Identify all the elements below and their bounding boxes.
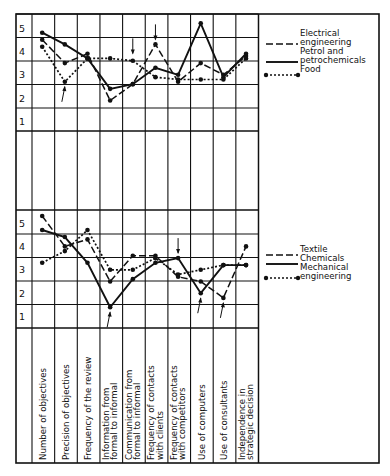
- data-point: [198, 279, 203, 284]
- arrow-head-icon: [131, 49, 135, 54]
- y-tick-label: 4: [19, 241, 25, 252]
- category-label: with clients: [155, 410, 165, 460]
- legend-top: ElectricalengineeringPetrol andpetrochem…: [264, 28, 367, 77]
- data-point: [108, 279, 113, 284]
- data-point: [63, 42, 68, 47]
- data-point: [221, 296, 226, 301]
- data-point: [198, 268, 203, 273]
- data-point: [85, 228, 90, 233]
- data-point: [244, 51, 249, 56]
- legend-label: engineering: [300, 271, 351, 281]
- data-point: [85, 51, 90, 56]
- category-labels: Number of objectivesPrecision of objecti…: [38, 357, 255, 460]
- data-point: [40, 30, 45, 35]
- data-point: [176, 77, 181, 82]
- data-point: [130, 268, 135, 273]
- category-label: Use of computers: [197, 384, 207, 460]
- category-label: Number of objectives: [38, 367, 48, 460]
- data-point: [244, 244, 249, 249]
- series-line: [42, 230, 246, 307]
- data-point: [221, 77, 226, 82]
- y-tick-label: 3: [19, 264, 25, 275]
- y-tick-label: 1: [19, 311, 25, 322]
- y-tick-label: 3: [19, 69, 25, 80]
- data-point: [153, 260, 158, 265]
- y-tick-label: 2: [19, 288, 25, 299]
- legend-item: Electricalengineering: [266, 28, 351, 47]
- category-label: formal to informal: [109, 383, 119, 460]
- data-point: [198, 21, 203, 26]
- data-point: [198, 61, 203, 66]
- y-tick-label: 4: [19, 46, 25, 57]
- bottom-panel-series: [40, 214, 248, 310]
- legend-marker: [264, 73, 268, 77]
- category-label: Precision of objectives: [61, 364, 71, 460]
- y-tick-label: 2: [19, 93, 25, 104]
- data-point: [221, 263, 226, 268]
- data-point: [153, 42, 158, 47]
- legend-marker: [264, 276, 268, 280]
- data-point: [40, 260, 45, 265]
- arrow-head-icon: [198, 297, 202, 303]
- category-label: with competitors: [177, 387, 187, 460]
- data-point: [108, 56, 113, 61]
- data-point: [40, 214, 45, 219]
- y-tick-label: 5: [19, 218, 25, 229]
- data-point: [85, 237, 90, 242]
- data-point: [40, 37, 45, 42]
- series-mechanical-engineering: [40, 228, 248, 277]
- top-panel-series: [40, 21, 248, 103]
- y-axis-ticks: 5432154321: [19, 23, 25, 323]
- y-tick-label: 5: [19, 23, 25, 34]
- data-point: [63, 244, 68, 249]
- category-label: strategic decision: [245, 384, 255, 460]
- data-point: [130, 277, 135, 282]
- data-point: [40, 44, 45, 49]
- data-point: [40, 228, 45, 233]
- data-point: [63, 80, 68, 85]
- data-point: [108, 98, 113, 103]
- series-chemicals: [40, 228, 248, 310]
- series-textile: [40, 214, 248, 301]
- data-point: [176, 256, 181, 261]
- data-point: [63, 235, 68, 240]
- arrow-head-icon: [176, 249, 180, 254]
- series-line: [42, 230, 246, 274]
- data-point: [153, 65, 158, 70]
- data-point: [85, 56, 90, 61]
- data-point: [153, 256, 158, 261]
- data-point: [198, 77, 203, 82]
- category-label: Use of consultants: [219, 380, 229, 460]
- data-point: [130, 82, 135, 87]
- data-point: [130, 253, 135, 258]
- data-point: [176, 272, 181, 277]
- data-point: [176, 73, 181, 78]
- y-tick-label: 1: [19, 116, 25, 127]
- data-point: [153, 75, 158, 80]
- chart-figure: 5432154321 ElectricalengineeringPetrol a…: [0, 0, 390, 476]
- legend-label: Food: [300, 64, 321, 74]
- data-point: [63, 249, 68, 254]
- category-label: Frequency of the review: [83, 357, 93, 460]
- data-point: [108, 268, 113, 273]
- legend-item: Food: [264, 64, 321, 77]
- data-point: [244, 56, 249, 61]
- series-petrol-and-petrochemicals: [40, 21, 248, 91]
- legend-item: Petrol andpetrochemicals: [266, 46, 366, 65]
- legend-bottom: TextileChemicalsMechanicalengineering: [264, 244, 352, 281]
- data-point: [108, 305, 113, 310]
- data-point: [130, 58, 135, 63]
- category-label: formal to informal: [132, 383, 142, 460]
- data-point: [85, 260, 90, 265]
- arrow-head-icon: [108, 311, 112, 317]
- arrow-head-icon: [62, 86, 66, 92]
- series-line: [42, 216, 246, 298]
- data-point: [244, 263, 249, 268]
- data-point: [63, 61, 68, 66]
- series-line: [42, 23, 246, 89]
- data-point: [108, 87, 113, 92]
- data-point: [198, 291, 203, 296]
